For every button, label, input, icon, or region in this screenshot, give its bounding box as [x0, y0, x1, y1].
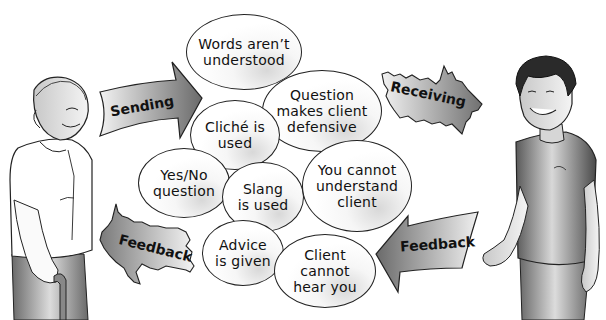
barrier-yes-no-question: Yes/No question: [138, 148, 230, 218]
barrier-label: Question makes client defensive: [276, 87, 367, 135]
barrier-client-cannot-hear: Client cannot hear you: [274, 234, 376, 308]
barrier-label: Words aren’t understood: [198, 36, 290, 68]
communication-diagram: Sending Receiving Feedback Feedback Word…: [0, 0, 606, 320]
sender-figure: [10, 77, 92, 320]
barrier-cannot-understand-client: You cannot understand client: [302, 140, 412, 232]
barrier-label: You cannot understand client: [316, 162, 398, 210]
barrier-label: Advice is given: [215, 237, 271, 269]
barrier-label: Yes/No question: [153, 167, 215, 199]
barrier-label: Cliché is used: [205, 119, 265, 151]
receiver-figure: [483, 56, 599, 320]
barrier-label: Client cannot hear you: [293, 247, 357, 295]
barrier-label: Slang is used: [238, 181, 289, 213]
barrier-advice: Advice is given: [202, 220, 284, 286]
